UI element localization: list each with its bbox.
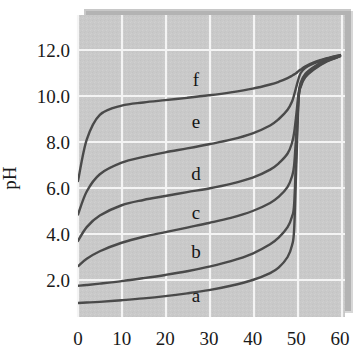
x-tick-label-40: 40 [243,328,262,349]
y-tick-label-12.0: 12.0 [37,40,70,61]
curve-label-e: e [192,111,200,132]
y-tick-label-6.0: 6.0 [46,178,70,199]
curve-label-d: d [191,163,201,184]
plot-area-background [78,15,345,317]
x-tick-label-30: 30 [200,328,219,349]
y-axis-tick-labels: 2.04.06.08.010.012.0 [37,40,70,291]
y-tick-label-8.0: 8.0 [46,132,70,153]
x-tick-label-20: 20 [156,328,175,349]
curve-label-b: b [191,241,201,262]
curve-label-c: c [192,202,200,223]
x-tick-label-50: 50 [287,328,306,349]
titration-curve-figure: fedcba 2.04.06.08.010.012.0 010203040506… [0,0,361,363]
y-tick-label-2.0: 2.0 [46,270,70,291]
x-tick-label-60: 60 [331,328,350,349]
curve-label-f: f [193,69,200,90]
y-axis-title: pH [0,166,20,190]
curve-label-a: a [192,285,201,306]
y-tick-label-4.0: 4.0 [46,224,70,245]
ph-titration-chart: fedcba 2.04.06.08.010.012.0 010203040506… [0,0,361,363]
x-tick-label-0: 0 [73,328,83,349]
x-axis-tick-labels: 0102030405060 [73,328,349,349]
y-tick-label-10.0: 10.0 [37,86,70,107]
x-tick-label-10: 10 [112,328,131,349]
